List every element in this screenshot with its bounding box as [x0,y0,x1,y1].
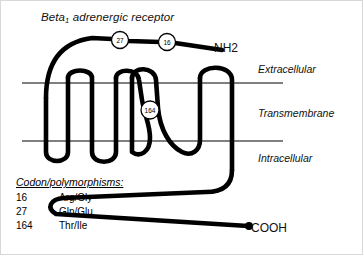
legend-row: 27 Gln/Glu [16,206,123,220]
legend-row: 164 Thr/Ile [16,220,123,234]
cooh-terminus-label: COOH [251,222,287,234]
transmembrane-region-label: Transmembrane [258,108,334,119]
nh2-terminus-label: NH2 [214,42,238,54]
receptor-diagram: 27 16 164 Beta1 adrenergic receptor NH2 … [0,0,363,256]
figure-title-subscript: 1 [65,16,69,25]
legend-codon: 164 [16,220,46,231]
codon-marker-27-label: 27 [110,37,130,44]
legend-polymorphism: Arg/Gly [46,192,92,203]
figure-title-prefix: Beta [41,11,65,23]
codon-marker-16-label: 16 [157,39,177,46]
codon-marker-164-label: 164 [140,107,160,114]
legend-codon: 27 [16,206,46,217]
codon-polymorphism-legend: Codon/polymorphisms: 16 Arg/Gly 27 Gln/G… [16,176,123,234]
legend-row: 16 Arg/Gly [16,192,123,206]
figure-title: Beta1 adrenergic receptor [41,12,174,24]
intracellular-region-label: Intracellular [258,153,312,164]
legend-polymorphism: Thr/Ile [46,220,87,231]
helix-1-2 [46,78,68,161]
helix-3-4 [68,71,116,162]
legend-polymorphism: Gln/Glu [46,206,93,217]
legend-title: Codon/polymorphisms: [16,176,123,188]
extracellular-region-label: Extracellular [258,64,316,75]
legend-codon: 16 [16,192,46,203]
figure-title-suffix: adrenergic receptor [69,11,174,23]
